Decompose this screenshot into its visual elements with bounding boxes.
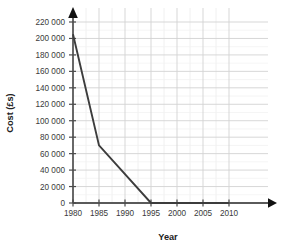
y-axis-tick-label: 40 000 — [40, 166, 65, 175]
y-axis-tick-label: 120 000 — [35, 100, 65, 109]
y-axis-tick-label: 60 000 — [40, 150, 65, 159]
chart-canvas: 020 00040 00060 00080 000100 000120 0001… — [0, 0, 281, 247]
y-axis-tick-label: 160 000 — [35, 67, 65, 76]
y-axis-tick-label: 200 000 — [35, 34, 65, 43]
x-axis-tick-label: 2010 — [220, 209, 239, 218]
x-axis-tick-label: 1985 — [90, 209, 109, 218]
y-axis-tick-label: 80 000 — [40, 133, 65, 142]
line-chart: 020 00040 00060 00080 000100 000120 0001… — [0, 0, 281, 247]
y-axis-tick-label: 100 000 — [35, 117, 65, 126]
x-axis-tick-label: 1990 — [116, 209, 135, 218]
x-axis-tick-label: 1980 — [64, 209, 83, 218]
y-axis-tick-label: 140 000 — [35, 84, 65, 93]
y-axis-tick-label: 220 000 — [35, 18, 65, 27]
x-axis-title: Year — [158, 232, 178, 242]
y-axis-tick-label: 180 000 — [35, 51, 65, 60]
y-axis-tick-label: 0 — [60, 199, 65, 208]
x-axis-tick-label: 2000 — [168, 209, 187, 218]
y-axis-title: Cost (£s) — [5, 93, 15, 132]
x-axis-tick-label: 2005 — [194, 209, 213, 218]
x-axis-tick-label: 1995 — [142, 209, 161, 218]
y-axis-tick-label: 20 000 — [40, 183, 65, 192]
